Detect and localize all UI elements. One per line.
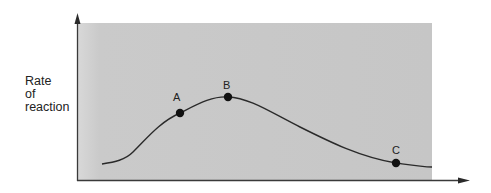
point-b-marker [224,93,232,101]
y-axis-arrow-icon [75,13,81,24]
rate-of-reaction-chart: A B C [0,0,491,193]
point-a-marker [176,109,184,117]
point-c: C [392,144,400,167]
point-c-marker [392,159,400,167]
point-b-label: B [223,79,230,91]
point-c-label: C [392,144,400,156]
point-a-label: A [173,91,181,103]
x-axis-arrow-icon [458,178,470,184]
plot-background [78,23,432,180]
